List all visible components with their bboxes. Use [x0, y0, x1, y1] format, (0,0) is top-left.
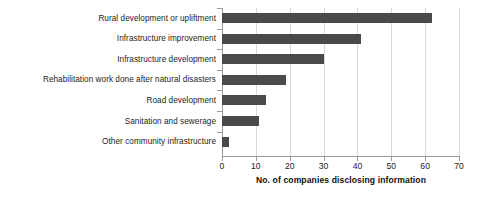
gridline-60 [425, 8, 426, 156]
bar [222, 34, 361, 44]
gridline-50 [391, 8, 392, 156]
x-tick-mark-50 [391, 157, 392, 161]
category-label: Infrastructure improvement [4, 34, 216, 44]
x-tick-label: 40 [353, 161, 363, 172]
x-tick-mark-40 [357, 157, 358, 161]
x-tick-mark-30 [324, 157, 325, 161]
x-tick-label: 0 [220, 161, 225, 172]
y-tick-mark [217, 111, 222, 112]
y-tick-mark [217, 29, 222, 30]
bar [222, 75, 286, 85]
x-tick-label: 70 [454, 161, 464, 172]
x-tick-mark-60 [425, 157, 426, 161]
bar [222, 116, 259, 126]
category-label: Rehabilitation work done after natural d… [4, 75, 216, 85]
bar [222, 13, 432, 23]
x-tick-label: 50 [387, 161, 397, 172]
y-tick-mark [217, 90, 222, 91]
y-tick-mark [217, 132, 222, 133]
x-axis-title: No. of companies disclosing information [222, 175, 460, 185]
category-axis-labels: Rural development or upliftmentInfrastru… [0, 8, 216, 156]
x-tick-label: 30 [319, 161, 329, 172]
gridline-20 [290, 8, 291, 156]
category-label: Infrastructure development [4, 55, 216, 65]
y-tick-mark [217, 49, 222, 50]
x-tick-label: 60 [420, 161, 430, 172]
x-tick-label: 20 [285, 161, 295, 172]
x-tick-mark-0 [222, 157, 223, 161]
category-label: Other community infrastructure [4, 137, 216, 147]
y-tick-mark [217, 8, 222, 9]
bar [222, 54, 324, 64]
bar [222, 137, 229, 147]
category-label: Rural development or upliftment [4, 14, 216, 24]
category-label: Sanitation and sewerage [4, 117, 216, 127]
gridline-30 [324, 8, 325, 156]
gridline-70 [459, 8, 460, 156]
x-tick-mark-70 [459, 157, 460, 161]
gridline-40 [357, 8, 358, 156]
x-tick-label: 10 [251, 161, 261, 172]
bar [222, 95, 266, 105]
category-label: Road development [4, 96, 216, 106]
y-tick-mark [217, 70, 222, 71]
x-tick-mark-10 [256, 157, 257, 161]
bar-chart: Rural development or upliftmentInfrastru… [0, 0, 481, 197]
plot-area [222, 8, 459, 156]
x-tick-mark-20 [290, 157, 291, 161]
